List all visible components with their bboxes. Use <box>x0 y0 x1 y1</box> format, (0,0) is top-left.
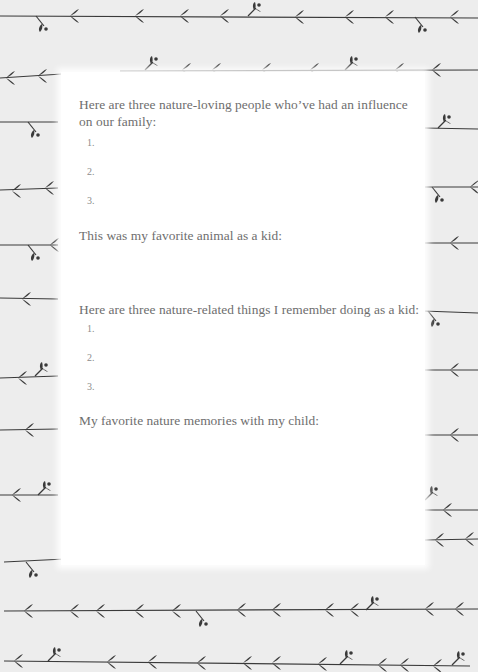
list-number-1: 1. <box>87 137 95 148</box>
answer-field-activity-2[interactable] <box>100 349 410 367</box>
prompt-influential-people-cont: on our family: <box>79 114 156 130</box>
answer-field-favorite-animal[interactable] <box>79 250 409 290</box>
prompt-nature-activities: Here are three nature-related things I r… <box>79 302 419 318</box>
answer-field-activity-1[interactable] <box>100 320 410 338</box>
prompt-favorite-animal: This was my favorite animal as a kid: <box>79 228 282 244</box>
prompt-influential-people: Here are three nature-loving people who’… <box>79 97 408 113</box>
answer-field-nature-memories[interactable] <box>79 436 409 556</box>
answer-field-person-3[interactable] <box>100 192 410 210</box>
list-number-1: 1. <box>87 323 95 334</box>
list-number-2: 2. <box>87 352 95 363</box>
list-number-3: 3. <box>87 381 95 392</box>
answer-field-activity-3[interactable] <box>100 378 410 396</box>
list-number-3: 3. <box>87 195 95 206</box>
prompt-nature-memories: My favorite nature memories with my chil… <box>79 413 319 429</box>
answer-field-person-2[interactable] <box>100 163 410 181</box>
answer-field-person-1[interactable] <box>100 134 410 152</box>
list-number-2: 2. <box>87 166 95 177</box>
